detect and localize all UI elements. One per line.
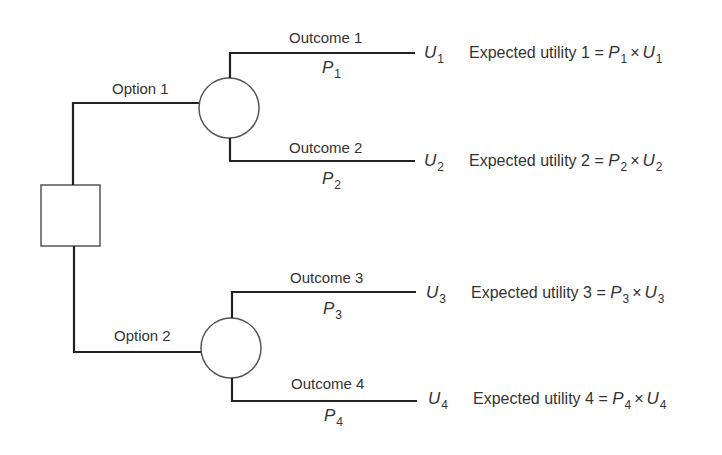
expected-utility-4-equation: Expected utility 4 = P4×U4 xyxy=(473,390,667,407)
utility-4-label: U4 xyxy=(428,390,448,407)
times-symbol: × xyxy=(630,152,639,169)
eq-p: P xyxy=(610,283,621,302)
eq-u-sub: 2 xyxy=(656,160,663,174)
util-var: U xyxy=(424,43,436,62)
expected-utility-1-equation: Expected utility 1 = P1×U1 xyxy=(469,44,663,61)
eq-p-sub: 1 xyxy=(621,52,628,66)
prob-var: P xyxy=(324,406,335,425)
outcome-3-label: Outcome 3 xyxy=(290,270,363,285)
option-1-label: Option 1 xyxy=(112,81,169,96)
eq-text: Expected utility 4 = xyxy=(473,390,612,407)
eq-u: U xyxy=(643,43,655,62)
probability-3-label: P3 xyxy=(323,300,342,317)
eq-text: Expected utility 3 = xyxy=(471,284,610,301)
prob-subscript: 1 xyxy=(334,67,341,81)
eq-p-sub: 2 xyxy=(621,160,628,174)
util-subscript: 3 xyxy=(439,292,446,306)
option-2-label: Option 2 xyxy=(114,328,171,343)
option-1-branch-line xyxy=(73,103,199,185)
prob-subscript: 3 xyxy=(335,308,342,322)
utility-2-label: U2 xyxy=(424,152,444,169)
times-symbol: × xyxy=(634,390,643,407)
probability-2-label: P2 xyxy=(322,170,341,187)
prob-var: P xyxy=(322,169,333,188)
prob-subscript: 2 xyxy=(334,178,341,192)
eq-p: P xyxy=(612,389,623,408)
util-subscript: 2 xyxy=(437,160,444,174)
expected-utility-2-equation: Expected utility 2 = P2×U2 xyxy=(469,152,663,169)
eq-u: U xyxy=(647,389,659,408)
outcome-1-label: Outcome 1 xyxy=(289,30,362,45)
eq-p-sub: 4 xyxy=(625,398,632,412)
eq-u: U xyxy=(645,283,657,302)
eq-p: P xyxy=(608,151,619,170)
chance-node-1 xyxy=(199,78,259,138)
util-var: U xyxy=(424,151,436,170)
util-var: U xyxy=(428,389,440,408)
prob-var: P xyxy=(322,58,333,77)
eq-text: Expected utility 1 = xyxy=(469,44,608,61)
outcome-4-label: Outcome 4 xyxy=(291,376,364,391)
times-symbol: × xyxy=(632,284,641,301)
util-subscript: 1 xyxy=(437,52,444,66)
outcome-2-label: Outcome 2 xyxy=(289,140,362,155)
eq-u: U xyxy=(643,151,655,170)
probability-4-label: P4 xyxy=(324,407,343,424)
prob-subscript: 4 xyxy=(336,415,343,429)
eq-text: Expected utility 2 = xyxy=(469,152,608,169)
utility-3-label: U3 xyxy=(426,284,446,301)
eq-p: P xyxy=(608,43,619,62)
chance-node-2 xyxy=(201,318,261,378)
eq-p-sub: 3 xyxy=(623,292,630,306)
util-var: U xyxy=(426,283,438,302)
expected-utility-3-equation: Expected utility 3 = P3×U3 xyxy=(471,284,665,301)
util-subscript: 4 xyxy=(441,398,448,412)
prob-var: P xyxy=(323,299,334,318)
eq-u-sub: 3 xyxy=(658,292,665,306)
eq-u-sub: 1 xyxy=(656,52,663,66)
eq-u-sub: 4 xyxy=(660,398,667,412)
times-symbol: × xyxy=(630,44,639,61)
probability-1-label: P1 xyxy=(322,59,341,76)
utility-1-label: U1 xyxy=(424,44,444,61)
decision-node xyxy=(41,185,100,246)
